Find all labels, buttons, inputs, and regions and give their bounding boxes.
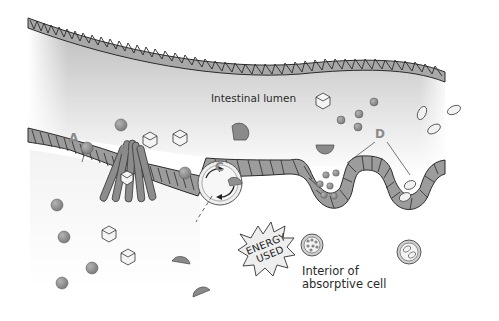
intestinal-absorption-diagram — [0, 0, 499, 321]
interior-label: Interior of absorptive cell — [302, 265, 386, 291]
intestinal-lumen-label: Intestinal lumen — [211, 92, 296, 104]
marker-c: C — [215, 160, 224, 174]
marker-b: B — [120, 143, 129, 157]
interior-label-line-2: absorptive cell — [302, 278, 386, 291]
marker-a: A — [69, 131, 78, 145]
intracellular-vesicle-ovals — [397, 240, 421, 264]
marker-d: D — [375, 127, 385, 141]
intracellular-vesicle-particles — [301, 234, 323, 256]
